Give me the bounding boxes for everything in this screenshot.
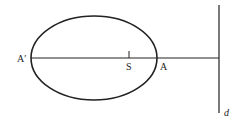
label-focus-s: S: [126, 61, 132, 72]
ellipse-diagram: A′ S A d: [0, 0, 236, 122]
label-a-prime: A′: [17, 53, 26, 64]
label-vertex-a: A: [160, 61, 168, 72]
label-directrix-d: d: [224, 107, 230, 118]
